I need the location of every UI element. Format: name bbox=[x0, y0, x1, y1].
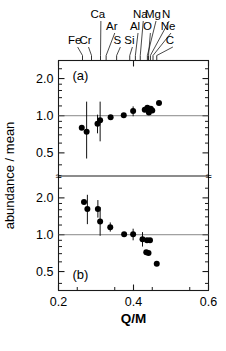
y-axis-label: abundance / mean bbox=[2, 122, 17, 230]
panel-a-label: (a) bbox=[73, 68, 89, 83]
panel-b-point bbox=[84, 206, 90, 212]
axis-break-symbol: ≈ bbox=[55, 170, 61, 182]
panel-b-point bbox=[154, 261, 160, 267]
x-tick-label: 0.6 bbox=[200, 295, 217, 309]
panel-a-point bbox=[79, 125, 85, 131]
element-label-C: C bbox=[166, 34, 174, 46]
panel-b-point bbox=[121, 231, 127, 237]
y-tick-label: 2.0 bbox=[36, 72, 53, 86]
x-tick-label: 0.4 bbox=[125, 295, 142, 309]
panel-a-point bbox=[84, 129, 90, 135]
y-tick-label: 2.0 bbox=[36, 191, 53, 205]
panel-b-label: (b) bbox=[73, 267, 89, 282]
element-leader-S bbox=[117, 47, 121, 56]
panel-b-point bbox=[146, 250, 152, 256]
panel-b-point bbox=[97, 219, 103, 225]
element-label-Ca: Ca bbox=[91, 8, 106, 20]
element-label-Ne: Ne bbox=[161, 20, 176, 32]
panel-a-point bbox=[130, 108, 136, 114]
element-label-Ar: Ar bbox=[106, 20, 118, 32]
element-leader-Al bbox=[135, 33, 138, 56]
element-label-Cr: Cr bbox=[79, 34, 91, 46]
panel-b-point bbox=[81, 199, 87, 205]
element-label-Si: Si bbox=[124, 34, 134, 46]
panel-b-point bbox=[107, 224, 113, 230]
element-label-O: O bbox=[143, 20, 152, 32]
y-tick-label: 0.5 bbox=[36, 265, 53, 279]
element-label-N: N bbox=[162, 8, 170, 20]
panel-a-point bbox=[121, 112, 127, 118]
element-label-S: S bbox=[114, 34, 122, 46]
element-leader-Cr bbox=[89, 47, 92, 56]
element-label-Mg: Mg bbox=[145, 8, 161, 20]
panel-b-point bbox=[130, 231, 136, 237]
abundance-vs-qm-plot: 0.20.40.60.51.02.00.51.02.0≈≈(a)(b)Q/Mab… bbox=[0, 0, 226, 351]
axis-break-symbol: ≈ bbox=[205, 170, 211, 182]
x-tick-label: 0.2 bbox=[50, 295, 67, 309]
element-label-Al: Al bbox=[130, 20, 140, 32]
element-leader-Si bbox=[130, 47, 133, 56]
element-leader-Fe bbox=[78, 47, 83, 56]
panel-b-point bbox=[147, 237, 153, 243]
panel-a-point bbox=[97, 117, 103, 123]
y-tick-label: 0.5 bbox=[36, 146, 53, 160]
y-tick-label: 1.0 bbox=[36, 228, 53, 242]
panel-a-point bbox=[149, 108, 155, 114]
panel-a-point bbox=[156, 100, 162, 106]
panel-a-point bbox=[108, 114, 114, 120]
y-tick-label: 1.0 bbox=[36, 109, 53, 123]
figure-container: 0.20.40.60.51.02.00.51.02.0≈≈(a)(b)Q/Mab… bbox=[0, 0, 226, 351]
x-axis-label: Q/M bbox=[121, 311, 147, 326]
